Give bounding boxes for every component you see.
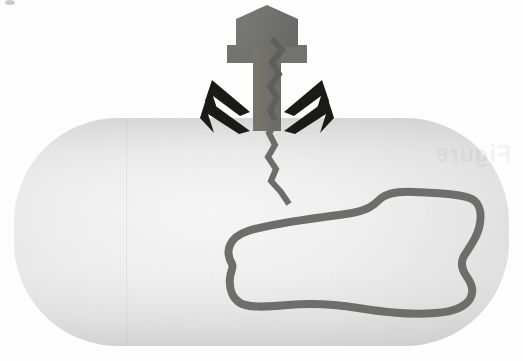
bacterium-bottom-shading	[14, 250, 509, 346]
bacterium-top-shading	[14, 118, 509, 214]
figure-root: A T-even bacteriophage attached to the s…	[0, 0, 523, 361]
bacteriophage-infection-diagram	[0, 0, 523, 361]
phage-head-capsid	[236, 5, 298, 47]
bacteriophage	[200, 5, 334, 134]
